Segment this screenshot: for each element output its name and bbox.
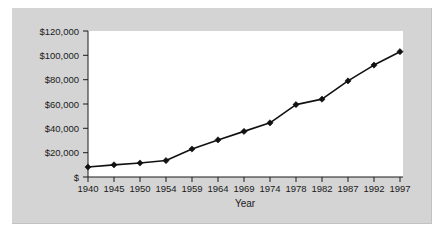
x-axis-tick-labels: 1940194519501954195919641969197419781982… [77, 183, 410, 194]
y-tick-label: $80,000 [45, 74, 79, 85]
x-tick-label: 1978 [285, 183, 306, 194]
x-tick-label: 1997 [389, 183, 410, 194]
y-axis-tick-labels: $120,000 $100,000 $80,000 $60,000 $40,00… [39, 26, 79, 183]
x-tick-label: 1954 [155, 183, 176, 194]
y-tick-label: $20,000 [45, 147, 79, 158]
x-tick-label: 1974 [259, 183, 280, 194]
chart-screenshot: $120,000 $100,000 $80,000 $60,000 $40,00… [0, 0, 445, 232]
line-chart: $120,000 $100,000 $80,000 $60,000 $40,00… [0, 0, 445, 232]
x-axis-title: Year [235, 198, 256, 209]
x-tick-label: 1959 [181, 183, 202, 194]
x-tick-label: 1982 [311, 183, 332, 194]
x-tick-label: 1950 [129, 183, 150, 194]
x-tick-label: 1987 [337, 183, 358, 194]
x-tick-label: 1964 [207, 183, 228, 194]
x-tick-label: 1969 [233, 183, 254, 194]
y-axis-ticks [83, 31, 88, 177]
y-tick-label: $40,000 [45, 123, 79, 134]
y-tick-label: $100,000 [39, 50, 79, 61]
x-tick-label: 1940 [77, 183, 98, 194]
x-axis-ticks [88, 177, 400, 182]
y-tick-label: $120,000 [39, 26, 79, 37]
y-tick-label: $60,000 [45, 99, 79, 110]
y-tick-label: $ [74, 172, 80, 183]
plot-area-background [88, 31, 403, 177]
x-tick-label: 1945 [103, 183, 124, 194]
x-tick-label: 1992 [363, 183, 384, 194]
